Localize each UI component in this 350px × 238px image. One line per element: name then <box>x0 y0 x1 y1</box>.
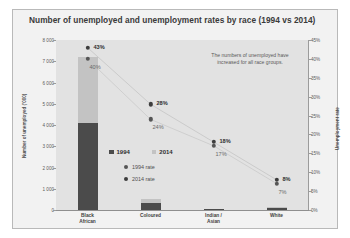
y-axis-right-tick-label: 10% <box>311 170 335 175</box>
y-axis-right-tick-mark <box>309 40 312 41</box>
legend-rate-label: 2014 rate <box>132 176 155 182</box>
y-axis-left-tick-mark <box>53 83 56 84</box>
rate-value-label: 24% <box>153 124 164 130</box>
y-axis-right-tick-mark <box>309 153 312 154</box>
x-axis-labels: Black AfricanColouredIndian / AsianWhite <box>56 213 308 229</box>
legend-entry[interactable]: 2014 <box>152 149 173 155</box>
y-axis-left-tick-mark <box>53 210 56 211</box>
y-axis-right-tick-label: 40% <box>311 56 335 61</box>
x-axis-category-label: Indian / Asian <box>205 213 222 225</box>
rate-value-label: 7% <box>279 189 287 195</box>
y-axis-right-tick-mark <box>309 59 312 60</box>
rate-value-label: 28% <box>157 100 168 106</box>
rate-value-label: 18% <box>220 138 231 144</box>
plot-area: 43%28%18%8%40%24%17%7% The numbers of un… <box>56 40 308 210</box>
y-axis-left-tick-mark <box>53 125 56 126</box>
legend-rates: 1994 rate2014 rate <box>124 164 155 182</box>
legend-rate-label: 1994 rate <box>132 164 155 170</box>
y-axis-right-tick-mark <box>309 134 312 135</box>
y-axis-right-ticks: 45%40%35%30%25%20%15%10%5%0% <box>311 40 337 210</box>
annotation-note: The numbers of unemployed have increased… <box>208 52 292 67</box>
y-axis-right-tick-label: 25% <box>311 113 335 118</box>
y-axis-right-tick-label: 30% <box>311 94 335 99</box>
x-axis-category-label: White <box>270 213 283 219</box>
y-axis-left-tick-label: 5 000 <box>28 101 54 106</box>
y-axis-left-tick-label: 8 000 <box>28 38 54 43</box>
legend-rate-entry[interactable]: 2014 rate <box>124 176 155 182</box>
y-axis-left-tick-label: 4 000 <box>28 123 54 128</box>
rate-value-label: 43% <box>94 44 105 50</box>
y-axis-left-tick-mark <box>53 168 56 169</box>
x-axis-category-label: Coloured <box>140 213 161 219</box>
y-axis-right-tick-mark <box>309 172 312 173</box>
bar-1994 <box>267 208 287 210</box>
bar-1994 <box>78 123 98 210</box>
x-axis-category-label: Black African <box>79 213 96 225</box>
y-axis-left-tick-label: 3 000 <box>28 144 54 149</box>
y-axis-left-tick-label: 7 000 <box>28 59 54 64</box>
legend-dot-icon <box>124 165 128 169</box>
y-axis-right-tick-mark <box>309 191 312 192</box>
legend-dot-icon <box>124 177 128 181</box>
y-axis-left-tick-mark <box>53 40 56 41</box>
legend-label: 2014 <box>159 149 172 155</box>
legend-label: 1994 <box>117 149 130 155</box>
legend-swatch-icon <box>109 150 114 155</box>
y-axis-right-tick-mark <box>309 210 312 211</box>
y-axis-left-tick-label: 6 000 <box>28 80 54 85</box>
x-axis-line <box>56 210 309 211</box>
y-axis-right-tick-label: 15% <box>311 151 335 156</box>
y-axis-left-ticks: 8 0007 0006 0005 0004 0003 0002 0001 000… <box>25 40 54 210</box>
y-axis-left-tick-label: 2 000 <box>28 165 54 170</box>
rate-value-label: 8% <box>283 176 291 182</box>
y-axis-right-line <box>308 40 309 210</box>
bar-1994 <box>204 209 224 210</box>
legend-swatch-icon <box>152 150 157 155</box>
y-axis-right-tick-mark <box>309 78 312 79</box>
y-axis-left-tick-mark <box>53 104 56 105</box>
bar-1994 <box>141 203 161 210</box>
y-axis-right-tick-mark <box>309 116 312 117</box>
y-axis-left-tick-mark <box>53 189 56 190</box>
chart-figure: Number of unemployed and unemployment ra… <box>12 9 338 229</box>
legend-series: 19942014 <box>109 149 173 155</box>
y-axis-right-tick-label: 0% <box>311 208 335 213</box>
chart-title: Number of unemployed and unemployment ra… <box>29 15 329 25</box>
y-axis-left-tick-mark <box>53 146 56 147</box>
y-axis-right-tick-mark <box>309 97 312 98</box>
rate-value-label: 17% <box>216 151 227 157</box>
rate-value-label: 40% <box>90 64 101 70</box>
y-axis-right-tick-label: 20% <box>311 132 335 137</box>
y-axis-left-tick-label: 1 000 <box>28 186 54 191</box>
legend-rate-entry[interactable]: 1994 rate <box>124 164 155 170</box>
legend-entry[interactable]: 1994 <box>109 149 130 155</box>
y-axis-right-tick-label: 5% <box>311 189 335 194</box>
y-axis-left-tick-mark <box>53 61 56 62</box>
y-axis-right-tick-label: 35% <box>311 75 335 80</box>
y-axis-left-tick-label: 0 <box>28 208 54 213</box>
y-axis-right-tick-label: 45% <box>311 38 335 43</box>
